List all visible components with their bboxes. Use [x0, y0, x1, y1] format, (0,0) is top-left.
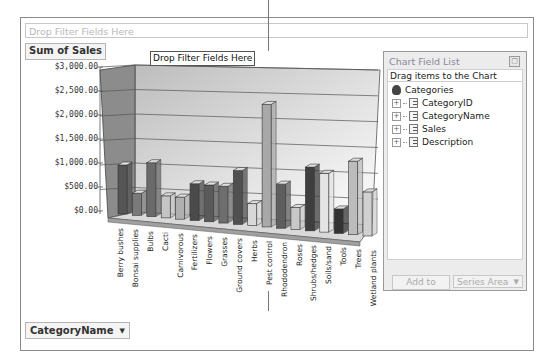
x-tick-label: Berry bushes [116, 228, 125, 288]
bar[interactable] [233, 170, 242, 224]
field-icon [409, 111, 418, 121]
bar[interactable] [372, 189, 377, 236]
add-to-button[interactable]: Add to [392, 275, 450, 290]
bar[interactable] [363, 192, 372, 236]
chevron-down-icon: ▼ [119, 324, 124, 338]
bar[interactable] [170, 193, 175, 218]
chevron-down-icon: ▼ [514, 276, 519, 289]
database-icon [392, 85, 401, 95]
field-item-description[interactable]: + Description [392, 137, 473, 147]
bar[interactable] [305, 167, 314, 231]
field-item-sales[interactable]: + Sales [392, 124, 446, 134]
x-tick-label: Wetland plants [369, 250, 378, 310]
bar[interactable] [190, 184, 199, 221]
category-name-label: CategoryName [30, 324, 113, 338]
bar[interactable] [349, 161, 358, 235]
bar[interactable] [127, 162, 132, 214]
area-select-value: Series Area [457, 277, 508, 287]
x-tick-label: Trees [354, 249, 363, 309]
bar[interactable] [118, 165, 127, 214]
x-tick-label: Soils/sand [324, 246, 333, 306]
field-label: CategoryName [422, 111, 490, 121]
field-item-categoryid[interactable]: + CategoryID [392, 98, 473, 108]
x-tick-label: Cacti [161, 232, 170, 292]
bar[interactable] [300, 204, 305, 229]
bar[interactable] [219, 186, 228, 223]
bar[interactable] [291, 207, 300, 229]
x-tick-label: Pest control [265, 241, 274, 301]
bar[interactable] [329, 170, 334, 232]
bar[interactable] [248, 204, 257, 226]
close-icon[interactable]: □ [509, 56, 520, 67]
field-icon [409, 137, 418, 147]
bar[interactable] [314, 164, 319, 231]
bar[interactable] [161, 196, 170, 218]
panel-subtitle: Drag items to the Chart [387, 69, 523, 81]
bar[interactable] [204, 185, 213, 222]
x-tick-label: Roses [295, 244, 304, 304]
drop-filter-tooltip: Drop Filter Fields Here [150, 51, 255, 66]
field-icon [409, 98, 418, 108]
bar[interactable] [343, 206, 348, 234]
tree-root-label: Categories [405, 85, 454, 95]
bar[interactable] [199, 181, 204, 221]
x-tick-label: Herbs [250, 240, 259, 300]
bar[interactable] [277, 184, 286, 228]
x-tick-label: Bonsai supplies [131, 229, 140, 289]
bar[interactable] [257, 201, 262, 226]
bar[interactable] [262, 104, 271, 227]
bar[interactable] [185, 194, 190, 219]
field-label: Sales [422, 124, 446, 134]
bar[interactable] [176, 197, 185, 219]
connector-line [268, 291, 269, 311]
x-tick-label: Shrubs/hedges [309, 245, 318, 305]
field-item-categoryname[interactable]: + CategoryName [392, 111, 490, 121]
chart-field-list-panel: Chart Field List □ Drag items to the Cha… [383, 51, 527, 291]
field-label: CategoryID [422, 98, 473, 108]
bar[interactable] [132, 193, 141, 215]
expand-icon[interactable]: + [392, 125, 401, 134]
x-tick-label: Grasses [220, 237, 229, 297]
x-tick-label: Fertilizers [190, 234, 199, 294]
field-tree: Categories + CategoryID + CategoryName +… [387, 81, 523, 260]
x-tick-label: Ground covers [235, 238, 244, 298]
bar[interactable] [242, 167, 247, 224]
bar[interactable] [213, 182, 218, 222]
x-tick-label: Flowers [205, 236, 214, 296]
bar[interactable] [141, 190, 146, 215]
category-name-button[interactable]: CategoryName ▼ [25, 322, 130, 339]
field-label: Description [422, 137, 473, 147]
bar[interactable] [358, 158, 363, 235]
bar[interactable] [147, 163, 156, 217]
expand-icon[interactable]: + [392, 138, 401, 147]
bar[interactable] [320, 173, 329, 232]
expand-icon[interactable]: + [392, 99, 401, 108]
bar[interactable] [334, 209, 343, 234]
bar[interactable] [228, 183, 233, 223]
tree-root-categories[interactable]: Categories [392, 85, 454, 95]
area-select[interactable]: Series Area ▼ [453, 275, 523, 288]
x-tick-label: Rhododendron [280, 242, 289, 302]
bar[interactable] [286, 181, 291, 228]
x-tick-label: Bulbs [146, 231, 155, 291]
x-tick-label: Tools [339, 247, 348, 307]
connector-line [268, 0, 269, 51]
panel-title: Chart Field List [389, 56, 460, 67]
bar[interactable] [271, 101, 276, 227]
expand-icon[interactable]: + [392, 112, 401, 121]
x-tick-label: Carnivorous [176, 233, 185, 293]
field-icon [409, 124, 418, 134]
bar[interactable] [156, 160, 161, 217]
